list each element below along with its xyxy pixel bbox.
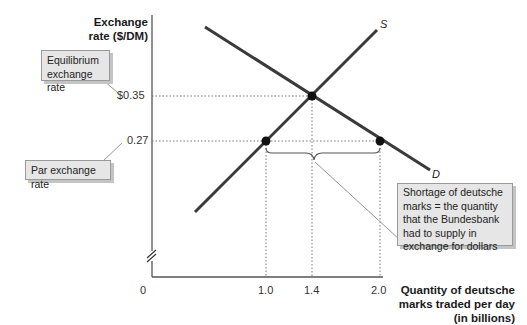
guide-lines — [152, 96, 380, 277]
supply-label: S — [380, 18, 387, 30]
callout-line: Par exchange rate — [31, 164, 105, 191]
equilibrium-point — [308, 92, 317, 101]
x-axis-title-line: marks traded per day — [388, 297, 515, 311]
callout-line: Shortage of deutsche — [403, 186, 507, 200]
shortage-leader — [315, 162, 400, 240]
x-axis-title-line: Quantity of deutsche — [388, 283, 515, 297]
shortage-brace — [266, 148, 380, 160]
par-leader — [103, 143, 122, 161]
callout-line: that the Bundesbank — [403, 213, 507, 227]
y-axis-title-line: Exchange — [80, 15, 148, 29]
shortage-callout: Shortage of deutsche marks = the quantit… — [397, 183, 513, 246]
demand-curve — [205, 27, 430, 170]
callout-line: Equilibrium — [47, 54, 104, 68]
x-tick-1: 1.0 — [258, 284, 273, 296]
callout-line: exchange for dollars — [403, 240, 507, 254]
par-demand-point — [376, 137, 385, 146]
par-supply-point — [262, 137, 271, 146]
y-axis-title: Exchange rate ($/DM) — [80, 15, 148, 43]
callout-line: exchange rate — [47, 68, 104, 95]
supply-curve — [195, 30, 377, 212]
y-axis-title-line: rate ($/DM) — [80, 29, 148, 43]
axis-break-icon — [147, 250, 157, 262]
callout-line: marks = the quantity — [403, 200, 507, 214]
equilibrium-leader — [103, 80, 118, 93]
x-axis-title-line: (in billions) — [388, 311, 515, 325]
x-tick-2: 1.4 — [304, 284, 319, 296]
equilibrium-callout: Equilibrium exchange rate — [41, 50, 110, 81]
x-axis-title: Quantity of deutsche marks traded per da… — [388, 283, 515, 325]
x-tick-3: 2.0 — [371, 284, 386, 296]
demand-label: D — [432, 168, 440, 180]
y-tick-low: 0.27 — [127, 134, 148, 146]
origin-label: 0 — [140, 284, 146, 296]
y-tick-high: $0.35 — [117, 89, 145, 101]
par-callout: Par exchange rate — [25, 160, 111, 180]
callout-line: had to supply in — [403, 227, 507, 241]
